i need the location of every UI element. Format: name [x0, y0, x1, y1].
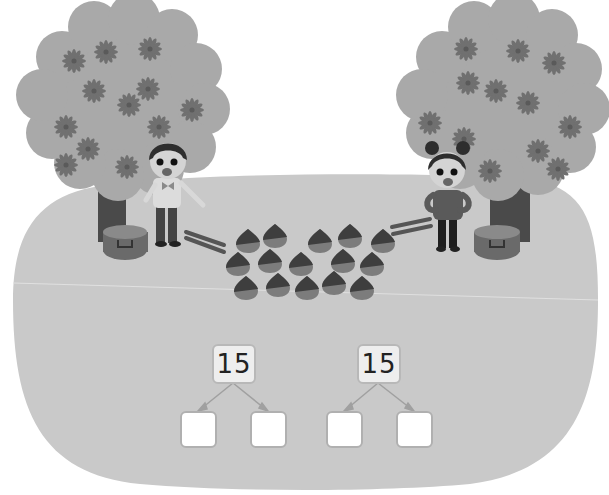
answer-box-2a[interactable]	[326, 411, 363, 448]
total-box-1: 15	[212, 344, 256, 384]
chestnut-scene	[0, 0, 609, 495]
answer-box-1b[interactable]	[250, 411, 287, 448]
right-basket	[474, 225, 520, 260]
answer-box-2b[interactable]	[396, 411, 433, 448]
total-box-2: 15	[357, 344, 401, 384]
left-basket	[103, 225, 148, 260]
answer-box-1a[interactable]	[180, 411, 217, 448]
